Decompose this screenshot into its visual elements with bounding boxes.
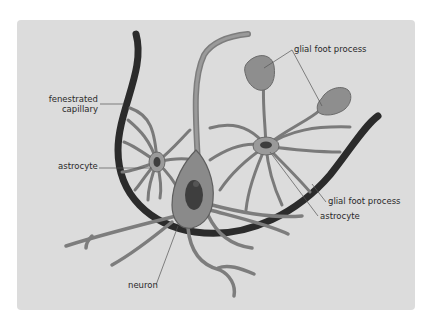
neuron-nucleolus [193,181,199,187]
label-astrocyte-left: astrocyte [58,161,98,171]
label-glial-foot-process-right: glial foot process [328,196,400,206]
glial-foot-process-top [245,56,275,91]
label-astrocyte-right: astrocyte [320,211,360,221]
label-neuron: neuron [128,280,158,290]
astrocyte-right-nucleus [260,142,272,149]
label-fenestrated-capillary: fenestrated capillary [40,94,98,114]
astrocyte-left-nucleus [154,157,161,167]
label-glial-foot-process-top: glial foot process [294,44,366,54]
label-fenestrated-line1: fenestrated [40,94,98,104]
glial-foot-process-right [317,88,351,115]
label-capillary-line2: capillary [40,104,98,114]
